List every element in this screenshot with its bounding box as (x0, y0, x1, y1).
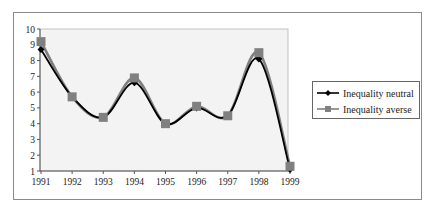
y-tick-label: 7 (30, 72, 35, 82)
x-tick-label: 1994 (125, 177, 144, 187)
square-marker (68, 92, 77, 101)
y-tick-label: 5 (30, 103, 35, 113)
diamond-marker-icon (317, 88, 339, 98)
x-tick-label: 1992 (63, 177, 82, 187)
square-marker (192, 102, 201, 111)
y-tick-label: 3 (30, 135, 35, 145)
square-marker (223, 111, 232, 120)
y-tick-label: 1 (30, 167, 35, 177)
square-marker (37, 37, 46, 46)
square-marker (286, 162, 295, 171)
x-tick-label: 1999 (281, 177, 300, 187)
legend-item-inequality-neutral: Inequality neutral (317, 86, 414, 100)
plot-area (40, 29, 288, 171)
square-marker (99, 113, 108, 122)
x-tick-label: 1997 (218, 177, 237, 187)
square-marker-icon (317, 104, 339, 114)
legend-label: Inequality averse (343, 104, 412, 115)
y-tick-label: 10 (26, 25, 36, 35)
legend-item-inequality-averse: Inequality averse (317, 102, 412, 116)
x-tick-label: 1991 (32, 177, 51, 187)
x-tick-label: 1993 (94, 177, 113, 187)
y-tick-label: 6 (30, 88, 35, 98)
legend: Inequality neutral Inequality averse (312, 81, 420, 119)
y-tick-label: 8 (30, 56, 35, 66)
square-marker (161, 119, 170, 128)
y-tick-label: 2 (30, 151, 35, 161)
x-tick-label: 1996 (187, 177, 206, 187)
x-axis: 199119921993199419951996199719981999 (32, 171, 300, 187)
legend-label: Inequality neutral (343, 88, 414, 99)
square-marker (130, 73, 139, 82)
square-marker (254, 48, 263, 57)
x-tick-label: 1995 (156, 177, 175, 187)
y-tick-label: 4 (30, 119, 35, 129)
y-axis: 12345678910 (26, 25, 41, 177)
x-tick-label: 1998 (249, 177, 268, 187)
y-tick-label: 9 (30, 40, 35, 50)
